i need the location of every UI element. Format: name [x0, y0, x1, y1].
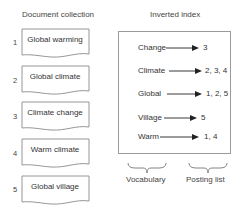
posting-list: 5 — [201, 113, 205, 122]
document-text: Global village — [21, 182, 89, 191]
index-term: Change — [138, 43, 166, 52]
vocabulary-brace-icon — [127, 162, 167, 174]
document-number: 2 — [13, 76, 17, 85]
arrow-right-icon — [166, 44, 200, 52]
document-card: Global village — [21, 175, 89, 202]
document-shape-icon — [21, 28, 91, 60]
posting-list: 2, 3, 4 — [205, 66, 227, 75]
index-term: Village — [138, 113, 162, 122]
index-term: Global — [138, 89, 161, 98]
posting-list-label: Posting list — [186, 175, 225, 184]
inverted-index-title: Inverted index — [150, 10, 200, 19]
document-number: 3 — [13, 112, 17, 121]
posting-list: 3 — [203, 43, 207, 52]
document-number: 1 — [13, 38, 17, 47]
arrow-right-icon — [167, 90, 203, 98]
document-card: Global warming — [21, 28, 89, 55]
document-text: Global warming — [21, 35, 89, 44]
arrow-right-icon — [164, 114, 198, 122]
document-number: 4 — [13, 149, 17, 158]
document-shape-icon — [21, 138, 91, 170]
index-term: Warm — [138, 132, 159, 141]
arrow-right-icon — [169, 67, 203, 75]
document-card: Climate change — [21, 101, 89, 128]
document-shape-icon — [21, 65, 91, 97]
document-text: Warm climate — [21, 145, 89, 154]
document-collection-title: Document collection — [22, 10, 94, 19]
document-card: Global climate — [21, 65, 89, 92]
document-text: Global climate — [21, 72, 89, 81]
posting-list-brace-icon — [188, 162, 228, 174]
document-card: Warm climate — [21, 138, 89, 165]
posting-list: 1, 2, 5 — [206, 89, 228, 98]
arrow-right-icon — [160, 133, 200, 141]
document-text: Climate change — [21, 108, 89, 117]
document-number: 5 — [13, 185, 17, 194]
vocabulary-label: Vocabulary — [126, 175, 166, 184]
document-shape-icon — [21, 101, 91, 133]
document-shape-icon — [21, 175, 91, 207]
index-term: Climate — [138, 66, 165, 75]
posting-list: 1, 4 — [204, 132, 217, 141]
